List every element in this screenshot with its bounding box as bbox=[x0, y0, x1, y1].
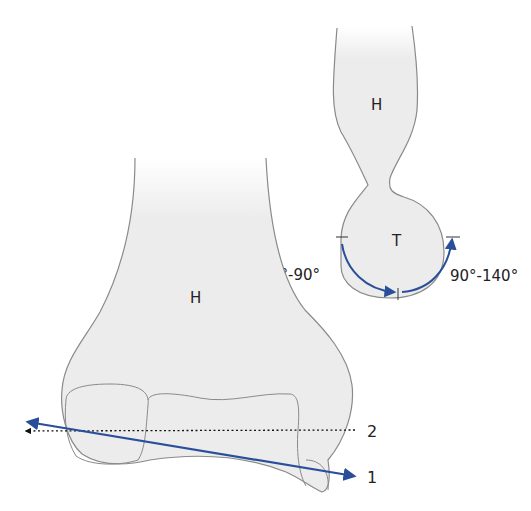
humerus-label-frontal: H bbox=[190, 289, 201, 307]
humerus-frontal-outline bbox=[62, 158, 353, 492]
flexion-range-right: 90°-140° bbox=[450, 267, 518, 285]
elbow-axis-diagram: H T 0°-90° 90°-140° H 2 1 bbox=[0, 0, 531, 511]
lateral-view: H T 0°-90° 90°-140° bbox=[271, 26, 518, 300]
trochlea-label: T bbox=[391, 232, 402, 250]
humerus-lateral-outline bbox=[333, 26, 444, 298]
humerus-label-lateral: H bbox=[371, 96, 382, 114]
axis-1-label: 1 bbox=[367, 468, 377, 487]
frontal-view: H 2 1 bbox=[26, 158, 377, 492]
axis-2-label: 2 bbox=[367, 422, 377, 441]
